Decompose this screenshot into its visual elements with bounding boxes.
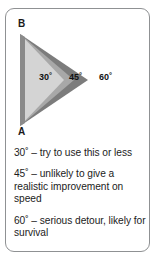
angle-label-30: 30˚ <box>39 73 52 82</box>
legend-list: 30˚ – try to use this or less 45˚ – unli… <box>14 147 148 239</box>
figure-card: B A 30˚ 45˚ 60˚ 30˚ – try to use this or… <box>5 8 150 252</box>
vertex-label-a: A <box>18 127 25 137</box>
legend-item-30: 30˚ – try to use this or less <box>14 147 148 159</box>
angle-wedge-diagram: B A 30˚ 45˚ 60˚ <box>6 9 149 143</box>
legend-item-45: 45˚ – unlikely to give a realistic impro… <box>14 168 148 205</box>
angle-label-45: 45˚ <box>69 73 82 82</box>
angle-label-60: 60˚ <box>99 73 112 82</box>
vertex-label-b: B <box>18 19 25 29</box>
baseline-spine <box>20 34 25 126</box>
legend-item-60: 60˚ – serious detour, likely for surviva… <box>14 215 148 240</box>
